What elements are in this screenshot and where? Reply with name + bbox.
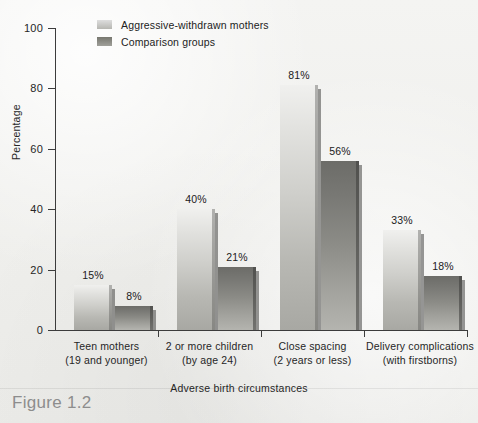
x-tick-separator-1 xyxy=(158,331,159,337)
x-category-label-close-spacing: Close spacing (2 years or less) xyxy=(261,340,364,367)
y-tick-label-80: 80 xyxy=(30,82,43,94)
bar-value-label: 56% xyxy=(329,145,351,157)
category-label-line2: (19 and younger) xyxy=(55,354,158,368)
bar-value-label: 15% xyxy=(82,269,104,281)
bar-teen-mothers-aggressive-withdrawn: 15% xyxy=(74,285,112,330)
x-tick-separator-2 xyxy=(261,331,262,337)
bar-value-label: 81% xyxy=(288,69,310,81)
plot-area: 0 20 40 60 80 100 15% 8% xyxy=(55,28,468,331)
bar-value-label: 8% xyxy=(126,290,142,302)
bar-two-or-more-children-aggressive-withdrawn: 40% xyxy=(177,209,215,330)
y-tick-0: 0 xyxy=(48,330,55,331)
bar-delivery-complications-aggressive-withdrawn: 33% xyxy=(383,230,421,330)
x-category-label-two-or-more-children: 2 or more children (by age 24) xyxy=(158,340,261,367)
category-label-line2: (2 years or less) xyxy=(261,354,364,368)
y-tick-60: 60 xyxy=(48,149,55,150)
y-axis-title: Percentage xyxy=(10,104,22,160)
y-tick-100: 100 xyxy=(48,28,55,29)
bar-group-delivery-complications: 33% 18% xyxy=(364,28,467,330)
x-category-label-teen-mothers: Teen mothers (19 and younger) xyxy=(55,340,158,367)
bar-two-or-more-children-comparison: 21% xyxy=(218,267,256,330)
y-tick-80: 80 xyxy=(48,88,55,89)
category-label-line1: Teen mothers xyxy=(74,340,139,352)
x-tick-separator-4 xyxy=(467,331,468,337)
y-tick-label-100: 100 xyxy=(24,22,43,34)
category-label-line2: (by age 24) xyxy=(158,354,261,368)
category-label-line2: (with firstborns) xyxy=(362,354,478,368)
x-tick-separator-3 xyxy=(364,331,365,337)
y-tick-label-20: 20 xyxy=(30,264,43,276)
x-category-label-delivery-complications: Delivery complications (with firstborns) xyxy=(362,340,478,367)
y-tick-label-60: 60 xyxy=(30,143,43,155)
bar-value-label: 21% xyxy=(226,251,248,263)
bar-delivery-complications-comparison: 18% xyxy=(424,276,462,330)
y-tick-label-0: 0 xyxy=(37,324,43,336)
y-tick-20: 20 xyxy=(48,270,55,271)
category-label-line1: Delivery complications xyxy=(366,340,474,352)
bar-group-teen-mothers: 15% 8% xyxy=(55,28,158,330)
bar-value-label: 18% xyxy=(432,260,454,272)
bar-value-label: 40% xyxy=(185,193,207,205)
y-tick-40: 40 xyxy=(48,209,55,210)
category-label-line1: 2 or more children xyxy=(166,340,253,352)
bar-close-spacing-aggressive-withdrawn: 81% xyxy=(280,85,318,330)
category-label-line1: Close spacing xyxy=(279,340,347,352)
bar-group-close-spacing: 81% 56% xyxy=(261,28,364,330)
bar-close-spacing-comparison: 56% xyxy=(321,161,359,330)
bar-value-label: 33% xyxy=(391,214,413,226)
figure-caption: Figure 1.2 xyxy=(12,393,92,413)
y-tick-label-40: 40 xyxy=(30,203,43,215)
bar-teen-mothers-comparison: 8% xyxy=(115,306,153,330)
bar-group-two-or-more-children: 40% 21% xyxy=(158,28,261,330)
caption-divider xyxy=(0,388,478,389)
figure-page: Aggressive-withdrawn mothers Comparison … xyxy=(0,0,478,423)
